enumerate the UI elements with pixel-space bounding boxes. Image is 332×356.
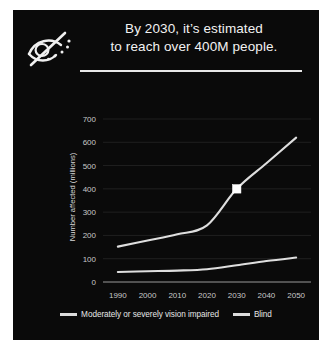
y-tick-label: 100 bbox=[83, 255, 97, 264]
y-tick-label: 500 bbox=[83, 162, 97, 171]
chart-annotations bbox=[232, 185, 241, 194]
line-chart: 0100200300400500600700 19902000201020202… bbox=[13, 82, 319, 304]
y-tick-label: 200 bbox=[83, 231, 97, 240]
chart-series bbox=[118, 138, 296, 272]
x-tick-label: 2040 bbox=[258, 291, 276, 300]
legend-item-blind: Blind bbox=[233, 310, 272, 319]
title-line-2: to reach over 400M people. bbox=[75, 38, 313, 56]
highlight-marker bbox=[232, 185, 241, 194]
chart-gridlines bbox=[103, 119, 311, 282]
legend-swatch-blind bbox=[233, 313, 250, 316]
chart-legend: Moderately or severely vision impaired B… bbox=[13, 310, 319, 319]
legend-label-vision-impaired: Moderately or severely vision impaired bbox=[81, 310, 219, 319]
infographic-card: By 2030, it’s estimated to reach over 40… bbox=[13, 10, 319, 340]
x-tick-label: 1990 bbox=[109, 291, 127, 300]
title-line-1: By 2030, it’s estimated bbox=[75, 20, 313, 38]
y-tick-label: 700 bbox=[83, 115, 97, 124]
y-tick-label: 0 bbox=[92, 278, 97, 287]
series-line-moderately-or-severely-vision-impaired bbox=[118, 138, 296, 247]
eye-slash-icon bbox=[25, 24, 79, 70]
y-tick-label: 600 bbox=[83, 138, 97, 147]
x-axis-tick-labels: 1990200020102020203020402050 bbox=[109, 291, 306, 300]
x-tick-label: 2020 bbox=[198, 291, 216, 300]
y-tick-label: 300 bbox=[83, 208, 97, 217]
x-tick-label: 2050 bbox=[287, 291, 305, 300]
series-line-blind bbox=[118, 258, 296, 272]
y-tick-label: 400 bbox=[83, 185, 97, 194]
x-tick-label: 2000 bbox=[139, 291, 157, 300]
title-divider bbox=[80, 70, 302, 72]
y-axis-label: Number affected (millions) bbox=[68, 152, 77, 241]
y-axis-tick-labels: 0100200300400500600700 bbox=[83, 115, 97, 287]
x-tick-label: 2030 bbox=[228, 291, 246, 300]
legend-label-blind: Blind bbox=[254, 310, 272, 319]
page-title: By 2030, it’s estimated to reach over 40… bbox=[75, 20, 313, 56]
x-axis-label: Year bbox=[199, 303, 215, 304]
x-tick-label: 2010 bbox=[168, 291, 186, 300]
legend-item-vision-impaired: Moderately or severely vision impaired bbox=[60, 310, 219, 319]
legend-swatch-vision-impaired bbox=[60, 313, 77, 316]
